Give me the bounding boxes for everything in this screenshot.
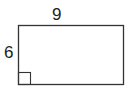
- rectangle-figure: [0, 0, 129, 100]
- right-angle-icon: [19, 73, 31, 85]
- height-label: 6: [4, 44, 13, 61]
- width-label: 9: [52, 6, 61, 23]
- rectangle-diagram: 9 6: [0, 0, 129, 100]
- rectangle-shape: [19, 26, 124, 85]
